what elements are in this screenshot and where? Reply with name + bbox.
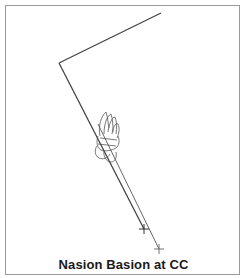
nasion-line	[59, 63, 144, 229]
cross-mark-2	[154, 244, 164, 254]
figure-caption: Nasion Basion at CC	[0, 257, 247, 272]
tooth-outline	[95, 112, 119, 162]
basion-line	[98, 124, 159, 249]
cephalometric-drawing	[0, 0, 247, 278]
upper-reference-line	[59, 13, 161, 63]
